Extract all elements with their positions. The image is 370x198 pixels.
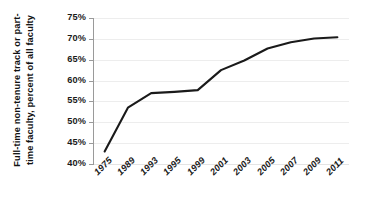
x-tick-label-1993: 1993: [138, 155, 160, 177]
x-tick-label-1999: 1999: [185, 155, 207, 177]
x-tick-label-1989: 1989: [115, 155, 137, 177]
y-tick-mark-70: [89, 39, 93, 40]
y-tick-mark-60: [89, 81, 93, 82]
x-tick-label-2009: 2009: [301, 155, 323, 177]
y-tick-mark-55: [89, 101, 93, 102]
x-tick-label-2007: 2007: [278, 155, 300, 177]
y-tick-mark-50: [89, 122, 93, 123]
x-tick-label-2003: 2003: [231, 155, 253, 177]
y-tick-mark-75: [89, 18, 93, 19]
y-tick-mark-45: [89, 143, 93, 144]
x-axis-tick-labels: 1975198919931995199920012003200520072009…: [0, 0, 370, 198]
x-tick-label-1975: 1975: [92, 155, 114, 177]
x-tick-label-2011: 2011: [324, 155, 346, 177]
x-tick-label-2001: 2001: [208, 155, 230, 177]
x-tick-label-2005: 2005: [255, 155, 277, 177]
y-tick-mark-65: [89, 60, 93, 61]
y-tick-mark-40: [89, 164, 93, 165]
line-chart: Full-time non-tenure track or part- time…: [0, 0, 370, 198]
x-tick-label-1995: 1995: [161, 155, 183, 177]
